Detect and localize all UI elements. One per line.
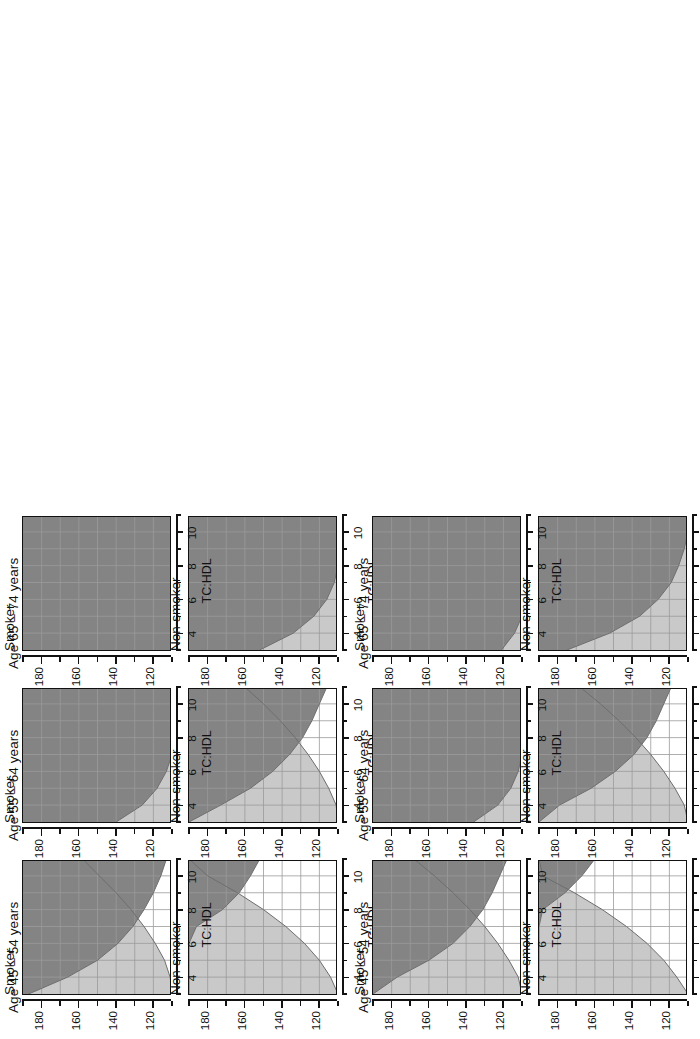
y-tick-label: 180 xyxy=(199,1011,211,1039)
x-tick-label: 8 xyxy=(536,899,548,923)
y-tick-label: 160 xyxy=(420,667,432,695)
x-tick-label: 4 xyxy=(536,622,548,646)
y-tick-label: 140 xyxy=(457,667,469,695)
x-axis-label: TC:HDL xyxy=(550,564,564,604)
y-tick-label: 140 xyxy=(107,839,119,867)
x-tick-label: 10 xyxy=(536,693,548,717)
plot-area xyxy=(372,688,521,823)
y-tick-label: 140 xyxy=(623,839,635,867)
x-tick-label: 6 xyxy=(536,760,548,784)
x-tick-label: 10 xyxy=(186,521,198,545)
age-group-column-2: Age 45 – 54 yearsNon-smoker 46810TC:HDL1… xyxy=(350,520,700,1039)
y-tick-label: 120 xyxy=(494,667,506,695)
x-tick-label: 4 xyxy=(536,794,548,818)
y-tick-label: 140 xyxy=(623,1011,635,1039)
y-tick-label: 160 xyxy=(236,1011,248,1039)
panel-title-smoker: Smoker xyxy=(352,604,367,651)
y-tick-label: 160 xyxy=(586,1011,598,1039)
y-tick-label: 140 xyxy=(273,839,285,867)
x-tick-label: 10 xyxy=(536,521,548,545)
y-tick-label: 160 xyxy=(420,1011,432,1039)
y-tick-label: 120 xyxy=(144,839,156,867)
x-tick-label: 4 xyxy=(186,966,198,990)
y-tick-label: 180 xyxy=(383,1011,395,1039)
x-tick-label: 10 xyxy=(536,865,548,889)
y-tick-label: 120 xyxy=(144,667,156,695)
y-tick-label: 140 xyxy=(107,1011,119,1039)
x-tick-label: 10 xyxy=(186,693,198,717)
y-tick-label: 160 xyxy=(236,667,248,695)
x-tick-label: 6 xyxy=(186,932,198,956)
x-axis-label: TC:HDL xyxy=(200,564,214,604)
x-tick-label: 4 xyxy=(186,794,198,818)
panel-title-smoker: Smoker xyxy=(2,948,17,995)
panel-title-smoker: Smoker xyxy=(2,604,17,651)
x-tick-label: 6 xyxy=(536,588,548,612)
x-tick-label: 4 xyxy=(536,966,548,990)
x-axis-label: TC:HDL xyxy=(200,736,214,776)
y-tick-label: 120 xyxy=(494,1011,506,1039)
y-tick-label: 120 xyxy=(660,667,672,695)
plot-area xyxy=(372,860,521,995)
y-tick-label: 140 xyxy=(273,667,285,695)
y-tick-label: 120 xyxy=(660,839,672,867)
y-tick-label: 140 xyxy=(457,1011,469,1039)
x-axis-label: TC:HDL xyxy=(200,908,214,948)
x-tick-label: 10 xyxy=(186,865,198,889)
x-tick-label: 8 xyxy=(186,727,198,751)
plot-area xyxy=(22,516,171,651)
x-tick-label: 8 xyxy=(186,555,198,579)
plot-area xyxy=(22,860,171,995)
y-tick-label: 180 xyxy=(33,839,45,867)
y-tick-label: 140 xyxy=(623,667,635,695)
y-tick-label: 120 xyxy=(310,839,322,867)
y-tick-label: 180 xyxy=(383,667,395,695)
x-tick-label: 8 xyxy=(536,555,548,579)
y-tick-label: 180 xyxy=(549,667,561,695)
y-tick-label: 160 xyxy=(586,839,598,867)
y-tick-label: 160 xyxy=(70,839,82,867)
y-tick-label: 160 xyxy=(70,1011,82,1039)
x-tick-label: 4 xyxy=(186,622,198,646)
age-group-column-1: Age 45 – 54 yearsNon-smoker 46810TC:HDL1… xyxy=(0,520,350,1039)
y-tick-label: 120 xyxy=(144,1011,156,1039)
y-tick-label: 180 xyxy=(33,1011,45,1039)
y-tick-label: 160 xyxy=(420,839,432,867)
x-tick-label: 6 xyxy=(536,932,548,956)
panel-title-smoker: Smoker xyxy=(352,776,367,823)
x-axis-label: TC:HDL xyxy=(550,736,564,776)
panel-title-smoker: Smoker xyxy=(352,948,367,995)
y-tick-label: 180 xyxy=(383,839,395,867)
y-tick-label: 140 xyxy=(457,839,469,867)
plot-area xyxy=(372,516,521,651)
y-tick-label: 180 xyxy=(199,667,211,695)
y-tick-label: 140 xyxy=(107,667,119,695)
x-tick-label: 6 xyxy=(186,588,198,612)
panel-title-smoker: Smoker xyxy=(2,776,17,823)
y-tick-label: 180 xyxy=(549,1011,561,1039)
y-tick-label: 180 xyxy=(33,667,45,695)
y-tick-label: 160 xyxy=(586,667,598,695)
y-tick-label: 180 xyxy=(199,839,211,867)
plot-area xyxy=(22,688,171,823)
x-tick-label: 8 xyxy=(536,727,548,751)
y-tick-label: 120 xyxy=(310,1011,322,1039)
x-tick-label: 6 xyxy=(186,760,198,784)
y-tick-label: 120 xyxy=(310,667,322,695)
x-axis-label: TC:HDL xyxy=(550,908,564,948)
figure-page: Age 45 – 54 yearsNon-smoker 46810TC:HDL1… xyxy=(0,0,700,1039)
y-tick-label: 120 xyxy=(494,839,506,867)
x-tick-label: 8 xyxy=(186,899,198,923)
y-tick-label: 180 xyxy=(549,839,561,867)
y-tick-label: 160 xyxy=(70,667,82,695)
y-tick-label: 140 xyxy=(273,1011,285,1039)
y-tick-label: 120 xyxy=(660,1011,672,1039)
y-tick-label: 160 xyxy=(236,839,248,867)
